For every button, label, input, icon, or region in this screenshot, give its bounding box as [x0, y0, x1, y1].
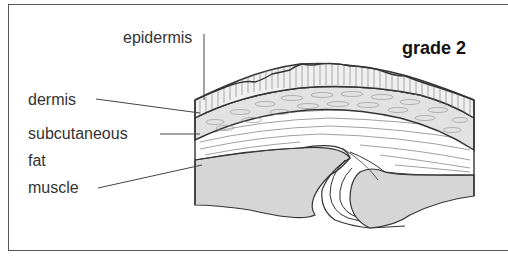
- grade-title: grade 2: [402, 39, 466, 57]
- bone-right: [350, 169, 474, 228]
- label-fat: fat: [28, 153, 46, 169]
- label-dermis: dermis: [28, 92, 76, 108]
- tissue-layers: [195, 63, 474, 228]
- leader-lines: [96, 34, 204, 188]
- label-epidermis: epidermis: [123, 30, 192, 46]
- label-subcutaneous: subcutaneous: [28, 126, 128, 142]
- leader-dermis: [96, 99, 200, 113]
- leader-muscle: [98, 165, 202, 188]
- label-muscle: muscle: [28, 180, 79, 196]
